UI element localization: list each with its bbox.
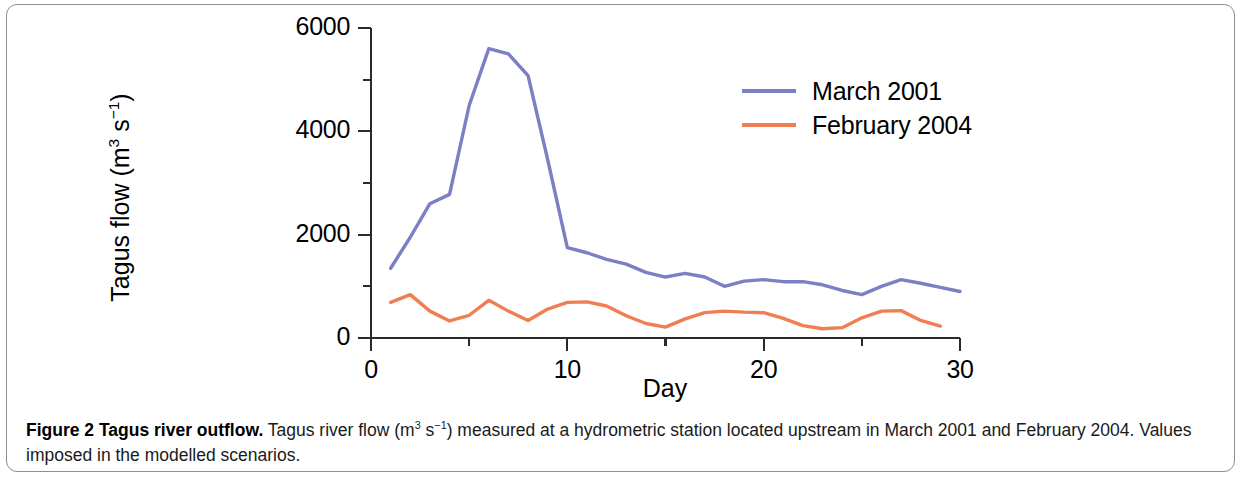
x-tick-label: 0 (331, 355, 411, 384)
chart-series-line (391, 295, 941, 329)
legend-label: March 2001 (812, 77, 942, 106)
legend-label: February 2004 (812, 111, 972, 140)
legend-swatch-line (742, 123, 796, 127)
y-tick-label: 2000 (240, 219, 350, 248)
y-axis-title-exponent-minus1: −1 (105, 102, 122, 120)
y-tick-label: 4000 (240, 115, 350, 144)
figure-caption-exponent-minus1: −1 (434, 419, 446, 431)
chart-plot (0, 0, 1245, 412)
y-axis-title: Tagus flow (m3 s−1) (106, 33, 135, 363)
legend-swatch-line (742, 89, 796, 93)
x-axis-title: Day (585, 374, 745, 403)
y-axis-title-exponent-3: 3 (105, 139, 122, 148)
legend-item-february-2004: February 2004 (742, 108, 972, 142)
chart-legend: March 2001 February 2004 (742, 74, 972, 142)
figure-caption-title: Figure 2 Tagus river outflow. (26, 420, 263, 440)
y-tick-label: 6000 (240, 12, 350, 41)
x-tick-label: 30 (920, 355, 1000, 384)
figure-caption: Figure 2 Tagus river outflow. Tagus rive… (26, 418, 1218, 468)
chart-area: 6000 4000 2000 0 0 10 20 30 Tagus flow (… (0, 0, 1245, 412)
y-tick-label: 0 (240, 322, 350, 351)
y-axis-title-suffix: ) (106, 93, 134, 101)
y-axis-title-mid: s (106, 119, 134, 138)
figure-caption-body-mid: s (421, 420, 435, 440)
y-axis-title-prefix: Tagus flow (m (106, 147, 134, 301)
legend-item-march-2001: March 2001 (742, 74, 972, 108)
figure-caption-body-pre: Tagus river flow (m (263, 420, 414, 440)
